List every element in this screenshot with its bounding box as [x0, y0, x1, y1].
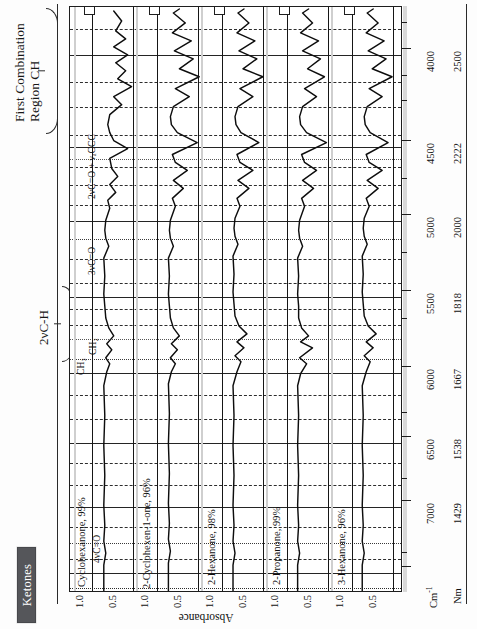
y-tick-p3-1.0: 1.0: [204, 595, 215, 608]
x-tick-cm-4000: 4000: [425, 51, 436, 72]
x-tickmark: [402, 140, 411, 141]
x-tick-nm-1818: 1818: [452, 293, 463, 314]
x-tickmark: [402, 290, 411, 291]
y-tick-p5-0.5: 0.5: [367, 595, 378, 608]
y-tick-p2-1.0: 1.0: [139, 595, 150, 608]
y-tick-p4-1.0: 1.0: [269, 595, 280, 608]
sample-label-4: 2-Propanone, 99%: [271, 507, 282, 585]
x-tickmark-minor: [402, 100, 407, 101]
x-tick-cm-7000: 7000: [425, 503, 436, 524]
x-tickmark: [402, 48, 411, 49]
x-tick-nm-2500: 2500: [452, 51, 463, 72]
spectra-traces: [70, 7, 401, 591]
annotation-4vco: 4νC=O: [92, 535, 102, 563]
x-axis-unit-wavenumber-text: Cm: [428, 593, 439, 608]
x-tickmark: [402, 366, 411, 367]
figure-left-rule: [57, 4, 58, 604]
sample-label-3: 2-Hexanone, 98%: [206, 509, 217, 585]
annotation-2vco-vaccc: 2νC=O + νₐCCC: [87, 134, 97, 199]
y-tick-p5-1.0: 1.0: [334, 595, 345, 608]
sample-label-5: 3-Hexanone, 96%: [336, 509, 347, 585]
x-tick-cm-4500: 4500: [425, 143, 436, 164]
x-tickmark-minor: [402, 412, 407, 413]
x-tickmark-minor: [402, 552, 407, 553]
x-axis-unit-nanometer: Nm: [452, 588, 463, 604]
sample-label-2: 2-Cyclohexen-1-one, 96%: [141, 478, 152, 589]
y-tick-p2-0.5: 0.5: [172, 595, 183, 608]
x-tick-cm-6000: 6000: [425, 369, 436, 390]
x-tickmark-minor: [402, 178, 407, 179]
region-label-ch-overtone: 2νC-H: [36, 310, 52, 345]
y-tick-p4-0.5: 0.5: [302, 595, 313, 608]
trace-2-hexanone: [233, 9, 263, 591]
trace-2-cyclohexen-1-one: [168, 9, 199, 591]
y-tick-p1-0.5: 0.5: [107, 595, 118, 608]
ketones-banner-label: Ketones: [19, 564, 34, 606]
y-tick-p3-0.5: 0.5: [237, 595, 248, 608]
figure-page: Ketones First Combination Region CH 2νC-…: [0, 0, 477, 629]
x-tick-cm-6500: 6500: [425, 439, 436, 460]
x-tickmark: [402, 214, 411, 215]
x-tickmark-minor: [402, 22, 407, 23]
y-axis-title: Absorbance: [179, 612, 234, 624]
scan-edge-band: [403, 6, 407, 592]
region-label-first-combination-line1: First Combination: [12, 23, 28, 122]
x-tick-nm-1667: 1667: [452, 369, 463, 390]
x-tick-nm-2222: 2222: [452, 143, 463, 164]
x-axis-unit-wavenumber: Cm-1: [425, 587, 439, 608]
trace-cyclohexanone: [104, 11, 132, 591]
x-axis-unit-wavenumber-exponent: -1: [425, 587, 434, 593]
x-tick-nm-1429: 1429: [452, 503, 463, 524]
annotation-3vco: 3νC=O: [87, 247, 97, 275]
annotation-ch2: CH₂: [88, 338, 98, 355]
figure-right-rule: [466, 4, 467, 604]
x-tick-cm-5500: 5500: [425, 293, 436, 314]
spectra-plot-area: 2νC=O + νₐCCC 3νC=O CH₂ CH₃ 4νC=O Cycloh…: [69, 6, 402, 592]
trace-3-hexanone: [362, 9, 392, 591]
x-tickmark-minor: [402, 252, 407, 253]
x-tickmark-minor: [402, 75, 407, 76]
ketones-category-banner: Ketones: [17, 547, 36, 623]
x-tickmark: [402, 436, 411, 437]
x-tickmark-minor: [402, 318, 407, 319]
sample-label-1: Cyclohexanone, 99%: [76, 497, 87, 587]
x-tickmark: [402, 500, 411, 501]
x-tick-nm-1538: 1538: [452, 439, 463, 460]
annotation-ch3: CH₃: [76, 358, 86, 375]
x-tick-nm-2000: 2000: [452, 217, 463, 238]
x-tickmark: [402, 566, 411, 567]
x-tickmark-minor: [402, 478, 407, 479]
x-tick-cm-5000: 5000: [425, 217, 436, 238]
y-tick-p1-1.0: 1.0: [74, 595, 85, 608]
trace-2-propanone: [298, 9, 327, 591]
